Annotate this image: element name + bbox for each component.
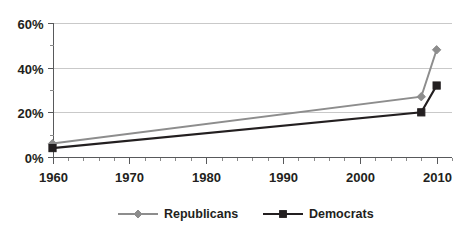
chart-canvas: 0%20%40%60% 196019701980199020002010 Rep… xyxy=(0,0,461,238)
x-tick-label-1980: 1980 xyxy=(192,170,221,185)
data-point-democrats-1960 xyxy=(49,144,56,151)
legend-label-democrats: Democrats xyxy=(309,207,374,221)
x-tick-label-1960: 1960 xyxy=(39,170,68,185)
y-tick-label-20: 20% xyxy=(17,106,43,121)
x-tick-label-1990: 1990 xyxy=(269,170,298,185)
legend-label-republicans: Republicans xyxy=(164,207,238,221)
x-tick-label-1970: 1970 xyxy=(115,170,144,185)
line-chart: 0%20%40%60% 196019701980199020002010 Rep… xyxy=(0,0,461,238)
y-tick-label-0: 0% xyxy=(25,151,44,166)
data-point-democrats-2008 xyxy=(418,109,425,116)
chart-background xyxy=(0,0,461,238)
data-point-democrats-2010 xyxy=(433,82,440,89)
y-tick-label-60: 60% xyxy=(17,17,43,32)
legend-marker-democrats xyxy=(280,211,287,218)
x-tick-label-2010: 2010 xyxy=(423,170,452,185)
y-tick-label-40: 40% xyxy=(17,62,43,77)
x-tick-label-2000: 2000 xyxy=(346,170,375,185)
